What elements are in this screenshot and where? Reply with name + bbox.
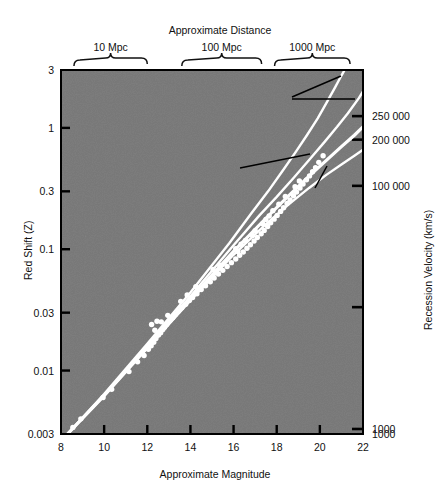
y-tick-label: 0.3	[39, 185, 54, 197]
data-point	[313, 165, 318, 170]
data-point	[216, 271, 221, 276]
data-point	[320, 153, 325, 158]
y2-tick-label: 1000	[372, 428, 396, 440]
y-tick-label: 3	[48, 64, 54, 76]
data-point	[292, 184, 297, 189]
data-point	[178, 299, 183, 304]
data-point	[235, 249, 240, 254]
data-point	[141, 353, 146, 358]
x-tick-label: 20	[314, 441, 326, 453]
data-point	[238, 242, 243, 247]
x-tick-label: 16	[228, 441, 240, 453]
data-point	[220, 268, 225, 273]
data-point	[270, 208, 275, 213]
distance-brackets	[74, 53, 350, 66]
data-point	[203, 283, 208, 288]
y2-tick-label: 250 000	[372, 110, 410, 122]
y-tick-label: 0.003	[28, 428, 54, 440]
x-tick-label: 22	[357, 441, 369, 453]
distance-bracket	[182, 53, 262, 66]
data-point	[152, 328, 157, 333]
data-point	[100, 395, 105, 400]
data-point	[109, 387, 114, 392]
data-point	[260, 221, 265, 226]
y-tick-label: 0.01	[34, 365, 55, 377]
data-point	[78, 416, 83, 421]
distance-bracket	[275, 53, 351, 66]
data-point	[165, 313, 170, 318]
data-point	[217, 262, 222, 267]
data-point	[229, 260, 234, 265]
data-point	[190, 295, 195, 300]
data-point	[243, 238, 248, 243]
data-point	[250, 233, 255, 238]
data-point	[149, 322, 154, 327]
data-point	[276, 202, 281, 207]
data-point	[194, 291, 199, 296]
data-point	[208, 279, 213, 284]
plot-background-grain	[61, 70, 363, 434]
x-tick-label: 12	[141, 441, 153, 453]
data-point	[210, 267, 215, 272]
data-point	[297, 178, 302, 183]
x-tick-label: 14	[185, 441, 197, 453]
y-tick-label: 1	[48, 122, 54, 134]
data-point	[184, 292, 189, 297]
y2-tick-label: 200 000	[372, 134, 410, 146]
data-point	[281, 205, 286, 210]
data-point	[211, 275, 216, 280]
data-point	[294, 189, 299, 194]
data-point	[193, 284, 198, 289]
y2-tick-label: 100 000	[372, 180, 410, 192]
data-point	[224, 264, 229, 269]
plot-canvas: 0.0030.010.030.10.3138101214161820221000…	[0, 0, 440, 494]
data-point	[199, 287, 204, 292]
data-point	[283, 194, 288, 199]
y-tick-label: 0.03	[34, 307, 55, 319]
data-point	[287, 197, 292, 202]
y-tick-label: 0.1	[39, 243, 54, 255]
data-point	[70, 425, 75, 430]
x-tick-label: 18	[271, 441, 283, 453]
data-point	[263, 217, 268, 222]
data-point	[159, 319, 164, 324]
x-tick-label: 10	[98, 441, 110, 453]
data-point	[126, 369, 131, 374]
distance-bracket	[74, 53, 147, 66]
data-point	[316, 160, 321, 165]
figure-root: Approximate Distance 10 Mpc 100 Mpc 1000…	[0, 0, 440, 494]
data-point	[252, 228, 257, 233]
x-tick-label: 8	[58, 441, 64, 453]
data-point	[135, 359, 140, 364]
